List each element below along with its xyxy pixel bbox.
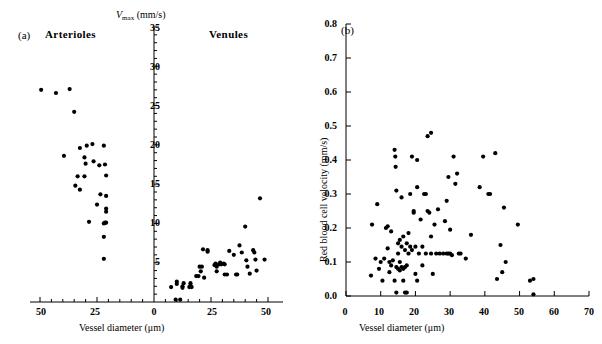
data-point xyxy=(102,257,106,261)
data-point xyxy=(458,251,462,255)
data-point xyxy=(488,192,492,196)
data-point xyxy=(258,196,262,200)
data-point xyxy=(200,265,204,269)
panel-a: (a) Arterioles Venules Vmax (mm/s) Vesse… xyxy=(0,0,301,344)
data-point xyxy=(391,258,395,262)
data-point xyxy=(386,246,390,250)
data-point xyxy=(174,298,178,302)
data-point xyxy=(54,91,58,95)
data-point xyxy=(431,272,435,276)
data-point xyxy=(408,192,412,196)
data-point xyxy=(225,272,229,276)
data-point xyxy=(215,269,219,273)
data-point xyxy=(389,229,393,233)
data-point xyxy=(386,224,390,228)
data-point xyxy=(244,258,248,262)
data-point xyxy=(199,269,203,273)
data-point xyxy=(377,267,381,271)
data-point xyxy=(196,274,200,278)
data-point xyxy=(78,188,82,192)
data-point xyxy=(478,185,482,189)
data-point xyxy=(235,272,239,276)
data-point xyxy=(380,279,384,283)
data-point xyxy=(464,257,468,261)
data-point xyxy=(252,250,256,254)
data-point xyxy=(420,245,424,249)
data-point xyxy=(98,192,102,196)
data-point xyxy=(399,245,403,249)
data-point xyxy=(436,207,440,211)
data-point xyxy=(405,263,409,267)
data-point xyxy=(495,277,499,281)
data-point xyxy=(420,263,424,267)
data-point xyxy=(504,260,508,264)
data-point xyxy=(394,291,398,295)
data-point xyxy=(201,247,205,251)
data-point xyxy=(493,151,497,155)
data-point xyxy=(419,217,423,221)
data-point xyxy=(102,235,106,239)
data-point xyxy=(169,285,173,289)
data-point xyxy=(102,221,106,225)
data-point xyxy=(190,285,194,289)
data-point xyxy=(245,265,249,269)
data-point xyxy=(531,292,535,296)
data-point xyxy=(443,219,447,223)
data-point xyxy=(396,251,400,255)
data-point xyxy=(248,272,252,276)
panel-b-plot-area xyxy=(301,0,602,344)
data-point xyxy=(84,162,88,166)
data-point xyxy=(227,249,231,253)
data-point xyxy=(448,228,452,232)
data-point xyxy=(412,211,416,215)
data-point xyxy=(39,88,43,92)
data-point xyxy=(82,174,86,178)
data-point xyxy=(399,195,403,199)
data-point xyxy=(393,279,397,283)
data-point xyxy=(387,270,391,274)
data-point xyxy=(393,148,397,152)
data-point xyxy=(502,206,506,210)
data-point xyxy=(413,245,417,249)
data-point xyxy=(78,146,82,150)
data-point xyxy=(68,87,72,91)
data-point xyxy=(72,110,76,114)
data-point xyxy=(104,173,108,177)
data-point xyxy=(223,262,227,266)
data-point xyxy=(410,155,414,159)
data-point xyxy=(415,185,419,189)
data-point xyxy=(401,234,405,238)
data-point xyxy=(178,298,182,302)
data-point xyxy=(410,248,414,252)
data-point xyxy=(445,199,449,203)
figure-container: (a) Arterioles Venules Vmax (mm/s) Vesse… xyxy=(0,0,602,344)
data-point xyxy=(481,155,485,159)
data-point xyxy=(415,279,419,283)
data-point xyxy=(90,142,94,146)
data-point xyxy=(73,184,77,188)
data-point xyxy=(393,155,397,159)
data-point xyxy=(375,202,379,206)
data-point xyxy=(500,270,504,274)
data-point xyxy=(369,274,373,278)
data-point xyxy=(516,223,520,227)
data-point xyxy=(394,165,398,169)
data-point xyxy=(398,260,402,264)
panel-a-plot-area xyxy=(0,0,301,344)
data-point xyxy=(415,158,419,162)
data-point xyxy=(429,251,433,255)
data-point xyxy=(405,241,409,245)
data-point xyxy=(398,238,402,242)
data-point xyxy=(446,175,450,179)
data-point xyxy=(237,243,241,247)
data-point xyxy=(469,233,473,237)
data-point xyxy=(452,155,456,159)
data-point xyxy=(531,277,535,281)
data-point xyxy=(450,253,454,257)
data-point xyxy=(62,154,66,158)
data-point xyxy=(403,248,407,252)
data-point xyxy=(76,174,80,178)
data-point xyxy=(262,257,266,261)
data-point xyxy=(97,163,101,167)
data-point xyxy=(182,281,186,285)
